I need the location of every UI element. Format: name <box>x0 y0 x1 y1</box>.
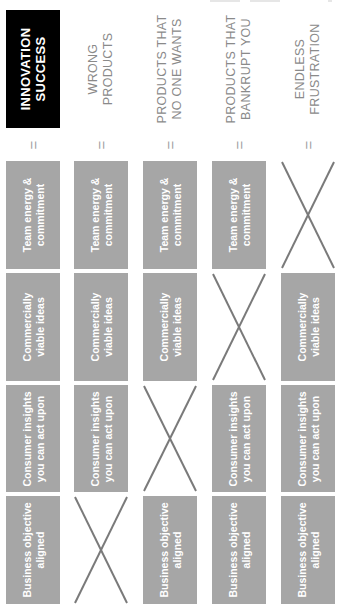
factor-label-line: Team energy & <box>21 178 34 253</box>
factor-label: Team energy &commitment <box>89 178 114 253</box>
equals-sign: = <box>281 136 335 154</box>
factor-label-line: viable ideas <box>101 293 114 362</box>
outcome-label-line: PRODUCTS <box>101 33 116 106</box>
factor-label: Consumer insightsyou can act upon <box>296 391 321 486</box>
outcome-label: PRODUCTS THATBANKRUPT YOU <box>224 15 254 124</box>
factor-label: Team energy &commitment <box>227 178 252 253</box>
factor-label-line: Business objective <box>21 502 34 597</box>
factor-box-team: Team energy &commitment <box>74 161 128 269</box>
factor-box-consumer: Consumer insightsyou can act upon <box>281 385 335 492</box>
outcome-column-5: ENDLESSFRUSTRATION=Commerciallyviable id… <box>281 0 335 606</box>
factor-box-commercial: Commerciallyviable ideas <box>74 273 128 381</box>
factor-label: Commerciallyviable ideas <box>158 293 183 362</box>
factor-box-commercial: Commerciallyviable ideas <box>281 273 335 381</box>
equals-icon: = <box>93 141 110 150</box>
factor-label-line: commitment <box>101 178 114 253</box>
factor-label-line: Consumer insights <box>296 391 309 486</box>
factor-label-line: viable ideas <box>33 293 46 362</box>
factor-label: Consumer insightsyou can act upon <box>89 391 114 486</box>
factor-box-consumer: Consumer insightsyou can act upon <box>212 385 266 492</box>
outcome-label-line: WRONG <box>86 33 101 106</box>
factor-label-line: Business objective <box>227 502 240 597</box>
missing-factor-commercial <box>212 273 266 381</box>
factor-label-line: Team energy & <box>158 178 171 253</box>
cross-out-x-icon <box>143 385 197 492</box>
factor-box-consumer: Consumer insightsyou can act upon <box>6 385 60 492</box>
equals-sign: = <box>212 136 266 154</box>
factor-label: Team energy &commitment <box>158 178 183 253</box>
factor-label: Commerciallyviable ideas <box>296 293 321 362</box>
outcome-label: PRODUCTS THATNO ONE WANTS <box>155 15 185 124</box>
factor-label: Commerciallyviable ideas <box>89 293 114 362</box>
factor-label-line: you can act upon <box>101 391 114 486</box>
factor-box-business: Business objectivealigned <box>143 496 197 604</box>
equals-icon: = <box>231 141 248 150</box>
factor-label-line: viable ideas <box>308 293 321 362</box>
factor-box-commercial: Commerciallyviable ideas <box>6 273 60 381</box>
outcome-header: ENDLESSFRUSTRATION <box>281 10 335 128</box>
outcome-label-line: PRODUCTS THAT <box>155 15 170 124</box>
factor-label-line: Consumer insights <box>89 391 102 486</box>
cross-out-x-icon <box>281 161 335 269</box>
equals-sign: = <box>143 136 197 154</box>
factor-label-line: aligned <box>170 502 183 597</box>
factor-label-line: Business objective <box>158 502 171 597</box>
factor-label-line: you can act upon <box>308 391 321 486</box>
outcome-header: WRONGPRODUCTS <box>74 10 128 128</box>
factor-label-line: Commercially <box>158 293 171 362</box>
equals-sign: = <box>74 136 128 154</box>
equals-sign: = <box>6 136 60 154</box>
equals-icon: = <box>162 141 179 150</box>
outcome-label: ENDLESSFRUSTRATION <box>293 23 323 114</box>
outcome-label-line: PRODUCTS THAT <box>224 15 239 124</box>
outcome-label-line: INNOVATION <box>18 28 33 111</box>
factor-label-line: viable ideas <box>170 293 183 362</box>
equals-icon: = <box>300 141 317 150</box>
factor-label-line: Consumer insights <box>227 391 240 486</box>
outcome-label-line: FRUSTRATION <box>308 23 323 114</box>
outcome-label-line: ENDLESS <box>293 23 308 114</box>
factor-label: Business objectivealigned <box>21 502 46 597</box>
factor-box-team: Team energy &commitment <box>212 161 266 269</box>
missing-factor-consumer <box>143 385 197 492</box>
factor-box-consumer: Consumer insightsyou can act upon <box>74 385 128 492</box>
factor-label-line: you can act upon <box>33 391 46 486</box>
factor-label-line: commitment <box>239 178 252 253</box>
outcome-label-line: SUCCESS <box>33 28 48 111</box>
outcome-column-2: WRONGPRODUCTS=Team energy &commitmentCom… <box>74 0 128 606</box>
factor-label-line: commitment <box>33 178 46 253</box>
factor-label: Business objectivealigned <box>296 502 321 597</box>
outcome-label: INNOVATIONSUCCESS <box>18 28 48 111</box>
factor-label-line: aligned <box>33 502 46 597</box>
factor-label: Business objectivealigned <box>158 502 183 597</box>
factor-label-line: Commercially <box>21 293 34 362</box>
factor-label-line: commitment <box>170 178 183 253</box>
factor-label: Commerciallyviable ideas <box>21 293 46 362</box>
missing-factor-team <box>281 161 335 269</box>
factor-label: Team energy &commitment <box>21 178 46 253</box>
outcome-label-line: BANKRUPT YOU <box>239 15 254 124</box>
factor-box-team: Team energy &commitment <box>6 161 60 269</box>
factor-label-line: you can act upon <box>239 391 252 486</box>
equals-icon: = <box>25 141 42 150</box>
outcome-column-3: PRODUCTS THATNO ONE WANTS=Team energy &c… <box>143 0 197 606</box>
factor-label: Consumer insightsyou can act upon <box>21 391 46 486</box>
outcome-label: WRONGPRODUCTS <box>86 33 116 106</box>
factor-label-line: Commercially <box>296 293 309 362</box>
factor-label: Consumer insightsyou can act upon <box>227 391 252 486</box>
factor-label-line: Team energy & <box>89 178 102 253</box>
factor-label-line: Consumer insights <box>21 391 34 486</box>
factor-box-business: Business objectivealigned <box>6 496 60 604</box>
factor-label-line: Business objective <box>296 502 309 597</box>
factor-box-business: Business objectivealigned <box>212 496 266 604</box>
missing-factor-business <box>74 496 128 604</box>
outcome-header: INNOVATIONSUCCESS <box>6 10 60 128</box>
factor-label: Business objectivealigned <box>227 502 252 597</box>
outcome-header: PRODUCTS THATNO ONE WANTS <box>143 10 197 128</box>
factor-label-line: aligned <box>308 502 321 597</box>
factor-box-commercial: Commerciallyviable ideas <box>143 273 197 381</box>
outcome-column-4: PRODUCTS THATBANKRUPT YOU=Team energy &c… <box>212 0 266 606</box>
outcome-header: PRODUCTS THATBANKRUPT YOU <box>212 10 266 128</box>
outcome-column-1: INNOVATIONSUCCESS=Team energy &commitmen… <box>6 0 60 606</box>
factor-label-line: Team energy & <box>227 178 240 253</box>
